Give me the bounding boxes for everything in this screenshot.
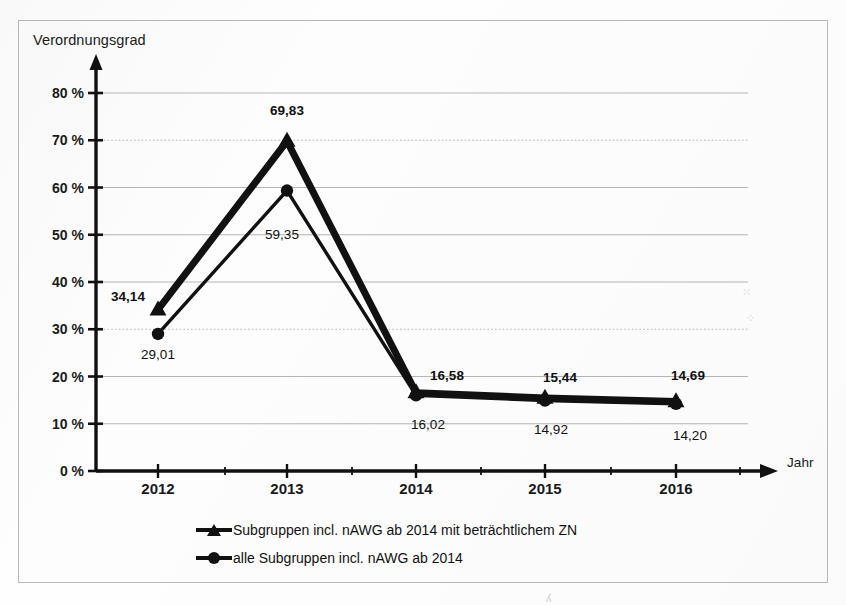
- y-tick-label-40: 40 %: [22, 274, 84, 290]
- y-tick-label-10: 10 %: [22, 416, 84, 432]
- data-label-s1-2014: 16,02: [411, 417, 445, 432]
- y-tick-label-0: 0 %: [22, 463, 84, 479]
- x-tick-label-2014: 2014: [399, 480, 432, 497]
- legend-label-0: Subgruppen incl. nAWG ab 2014 mit beträc…: [232, 522, 577, 538]
- data-label-s0-2015: 15,44: [543, 370, 577, 385]
- legend-item-subgruppen-zn: Subgruppen incl. nAWG ab 2014 mit beträc…: [196, 518, 716, 542]
- y-tick-label-70: 70 %: [22, 132, 84, 148]
- x-axis-title: Jahr: [787, 455, 814, 470]
- data-label-s1-2013: 59,35: [265, 227, 299, 242]
- legend-item-alle-subgruppen: alle Subgruppen incl. nAWG ab 2014: [196, 546, 716, 570]
- y-axis-title: Verordnungsgrad: [33, 32, 146, 48]
- circle-marker-icon: [196, 550, 232, 566]
- marker-circle-2014: [410, 389, 422, 401]
- scan-artifact: ⁙: [742, 286, 751, 299]
- marker-circle-2016: [670, 398, 682, 410]
- data-label-s0-2012: 34,14: [111, 289, 145, 304]
- data-label-s0-2014: 16,58: [430, 368, 464, 383]
- y-axis-arrow: [90, 54, 103, 70]
- scan-artifact: ʎ: [546, 592, 552, 604]
- data-label-s1-2016: 14,20: [673, 428, 707, 443]
- marker-triangle-2013: [279, 132, 296, 147]
- y-tick-label-50: 50 %: [22, 227, 84, 243]
- series-line-1: [158, 191, 676, 404]
- y-tick-label-20: 20 %: [22, 369, 84, 385]
- data-label-s1-2012: 29,01: [141, 347, 175, 362]
- y-tick-label-30: 30 %: [22, 321, 84, 337]
- series-line-0: [158, 141, 676, 402]
- data-label-s1-2015: 14,92: [534, 422, 568, 437]
- marker-circle-2012: [152, 328, 164, 340]
- x-tick-label-2015: 2015: [528, 480, 561, 497]
- data-label-s0-2016: 14,69: [671, 368, 705, 383]
- y-tick-label-80: 80 %: [22, 85, 84, 101]
- triangle-marker-icon: [196, 522, 232, 538]
- series-markers: [150, 132, 685, 410]
- marker-circle-2015: [539, 394, 551, 406]
- data-label-s0-2013: 69,83: [270, 103, 304, 118]
- marker-circle-2013: [281, 184, 293, 196]
- y-tick-label-60: 60 %: [22, 180, 84, 196]
- x-axis-arrow: [760, 464, 778, 478]
- scan-artifact: ⁘: [746, 312, 755, 325]
- chart-legend: Subgruppen incl. nAWG ab 2014 mit beträc…: [196, 518, 716, 574]
- x-tick-label-2016: 2016: [659, 480, 692, 497]
- series-lines: [158, 141, 676, 404]
- x-tick-label-2013: 2013: [270, 480, 303, 497]
- x-tick-label-2012: 2012: [141, 480, 174, 497]
- legend-label-1: alle Subgruppen incl. nAWG ab 2014: [232, 550, 463, 566]
- chart-page: Verordnungsgrad Jahr 0 %10 %20 %30 %40 %…: [0, 0, 846, 605]
